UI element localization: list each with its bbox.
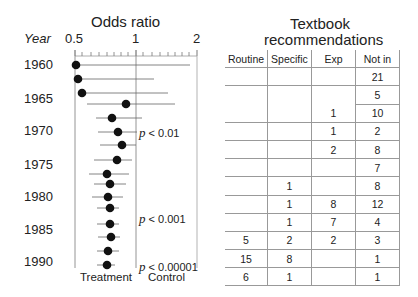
cell-specific: 1: [268, 268, 312, 286]
col-header-routine: Routine: [225, 50, 268, 68]
cell-exp: 1: [312, 104, 356, 122]
cell-not-in: 10: [356, 104, 400, 122]
cell-not-in: 1: [356, 250, 400, 268]
cell-routine: 5: [225, 231, 268, 249]
year-label-1965: 1965: [24, 91, 53, 106]
cell-exp: 7: [312, 213, 356, 231]
cell-routine: [225, 86, 268, 104]
cell-not-in: 2: [356, 122, 400, 140]
pvalue-annotation-1: p < 0.01: [139, 125, 179, 141]
cell-specific: [268, 86, 312, 104]
cell-not-in: 4: [356, 213, 400, 231]
cell-not-in: 5: [356, 86, 400, 104]
table-row: 5223: [225, 231, 400, 249]
table-row: 5: [225, 86, 400, 104]
cell-routine: [225, 104, 268, 122]
confidence-intervals: [76, 65, 190, 265]
year-label-1980: 1980: [24, 189, 53, 204]
table-row: 1581: [225, 250, 400, 268]
cell-routine: [225, 140, 268, 158]
point-estimates: [72, 61, 131, 270]
col-header-not-in: Not in: [356, 50, 400, 68]
cell-routine: [225, 195, 268, 213]
cell-exp: [312, 250, 356, 268]
year-label-1990: 1990: [24, 254, 53, 269]
cell-exp: 1: [312, 122, 356, 140]
year-label-1960: 1960: [24, 57, 53, 72]
cell-specific: 1: [268, 195, 312, 213]
pvalue-annotation-2: p < 0.001: [139, 211, 186, 227]
cell-exp: [312, 177, 356, 195]
cell-exp: [312, 86, 356, 104]
col-header-specific: Specific: [268, 50, 312, 68]
cell-specific: 2: [268, 231, 312, 249]
table-row: 18: [225, 177, 400, 195]
control-label: Control: [148, 271, 185, 283]
cell-specific: [268, 159, 312, 177]
cell-specific: [268, 104, 312, 122]
cell-specific: 1: [268, 213, 312, 231]
cell-exp: 2: [312, 231, 356, 249]
cell-not-in: 8: [356, 140, 400, 158]
table-title-line1: Textbook: [290, 15, 350, 32]
cell-specific: [268, 68, 312, 86]
cell-not-in: 8: [356, 177, 400, 195]
cell-routine: [225, 213, 268, 231]
recommendations-table: Routine Specific Exp Not in 21 5 110 12 …: [225, 50, 400, 286]
cell-not-in: 21: [356, 68, 400, 86]
table-row: 12: [225, 122, 400, 140]
table-title-line2: recommendations: [264, 31, 383, 48]
table-row: 21: [225, 68, 400, 86]
table-row: 1812: [225, 195, 400, 213]
table-row: 611: [225, 268, 400, 286]
cell-exp: [312, 268, 356, 286]
table-row: 28: [225, 140, 400, 158]
cell-routine: 15: [225, 250, 268, 268]
cell-not-in: 12: [356, 195, 400, 213]
table-row: 7: [225, 159, 400, 177]
cell-routine: [225, 122, 268, 140]
table-row: 174: [225, 213, 400, 231]
cell-not-in: 7: [356, 159, 400, 177]
cell-exp: [312, 68, 356, 86]
cell-specific: [268, 140, 312, 158]
cell-routine: [225, 68, 268, 86]
cell-specific: 8: [268, 250, 312, 268]
year-label-1985: 1985: [24, 222, 53, 237]
cell-routine: [225, 159, 268, 177]
year-label-1970: 1970: [24, 123, 53, 138]
year-label-1975: 1975: [24, 157, 53, 172]
cell-routine: [225, 177, 268, 195]
table-header-row: Routine Specific Exp Not in: [225, 50, 400, 68]
cell-exp: 2: [312, 140, 356, 158]
cell-specific: [268, 122, 312, 140]
col-header-exp: Exp: [312, 50, 356, 68]
table-row: 110: [225, 104, 400, 122]
cell-exp: 8: [312, 195, 356, 213]
forest-plot: [0, 0, 218, 297]
cell-routine: 6: [225, 268, 268, 286]
cell-not-in: 1: [356, 268, 400, 286]
cell-not-in: 3: [356, 231, 400, 249]
cell-specific: 1: [268, 177, 312, 195]
cell-exp: [312, 159, 356, 177]
treatment-label: Treatment: [80, 271, 132, 283]
